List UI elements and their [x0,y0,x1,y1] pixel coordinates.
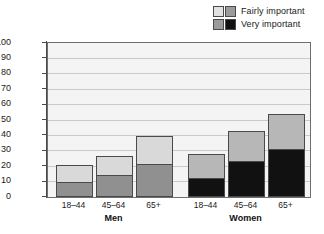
bar-men-65+ [136,137,173,197]
gridline [48,104,310,105]
y-tick-label: 0 [0,192,11,201]
y-tick-label: 30 [0,145,11,154]
gridline [48,73,310,74]
bar-segment-fairly-important [268,114,305,150]
y-tick-label: 100 [0,38,11,47]
legend-swatch-fairly-women [225,6,236,17]
y-tick-label: 20 [0,161,11,170]
y-tick-label: 40 [0,130,11,139]
legend-label-very-important: Very important [241,19,300,30]
bar-segment-fairly-important [136,136,173,165]
bar-women-65+ [268,115,305,197]
legend-item-very-important: Very important [213,18,321,30]
y-tick-label: 60 [0,99,11,108]
bar-segment-fairly-important [96,156,133,176]
x-tick-label: 65+ [259,201,312,210]
gridline [48,58,310,59]
bar-segment-very-important [136,164,173,197]
bar-segment-fairly-important [228,131,265,162]
bar-segment-very-important [268,149,305,197]
gridline [48,89,310,90]
y-tick-label: 10 [0,176,11,185]
x-axis-group-label-men: Men [55,213,172,223]
y-tick-label: 80 [0,68,11,77]
legend-swatch-very-women [225,19,236,30]
y-tick-label: 70 [0,84,11,93]
y-tick-label: 50 [0,115,11,124]
legend-item-fairly-important: Fairly important [213,5,321,17]
chart-container: Fairly important Very important Percent … [0,0,324,234]
bar-segment-very-important [56,182,93,197]
bar-segment-very-important [228,161,265,197]
x-tick-label: 65+ [127,201,180,210]
legend-swatch-very-men [213,19,224,30]
plot-area [47,42,311,198]
y-tick-label: 90 [0,53,11,62]
chart-legend: Fairly important Very important [213,5,321,31]
bar-women-45-64 [228,132,265,197]
x-axis-group-label-women: Women [187,213,304,223]
bar-segment-fairly-important [56,165,93,183]
legend-label-fairly-important: Fairly important [241,6,305,17]
bar-men-45-64 [96,157,133,197]
bar-men-18-44 [56,166,93,197]
bar-segment-very-important [188,178,225,197]
bar-segment-very-important [96,175,133,197]
bar-segment-fairly-important [188,154,225,178]
bar-women-18-44 [188,155,225,197]
legend-swatch-fairly-men [213,6,224,17]
